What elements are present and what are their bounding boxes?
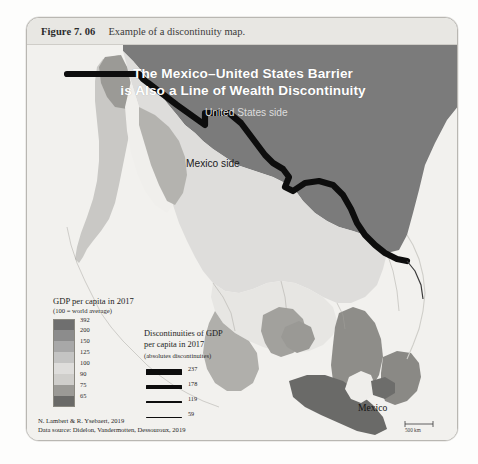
legend-gdp-per-capita: GDP per capita in 2017 (100 = world aver… — [53, 296, 134, 407]
legend-disc-item: 178 — [144, 378, 223, 393]
legend-gdp-swatch: 90 — [53, 374, 75, 385]
legend-gdp-tick-label: 90 — [80, 370, 86, 377]
figure-frame: Figure 7. 06 Example of a discontinuity … — [26, 17, 458, 441]
legend-disc-title-line-2: per capita in 2017 — [144, 340, 223, 351]
legend-gdp-swatch: 150 — [53, 341, 75, 352]
legend-discontinuities: Discontinuities of GDP per capita in 201… — [144, 329, 223, 423]
legend-gdp-swatch: 125 — [53, 352, 75, 363]
legend-gdp-swatch: 65 — [53, 396, 75, 407]
legend-gdp-tick-label: 125 — [80, 348, 90, 355]
legend-gdp-tick-label: 392 — [80, 316, 90, 323]
legend-gdp-tick-label: 150 — [80, 337, 90, 344]
figure-number-label: Figure 7. 06 — [41, 26, 95, 37]
figure-caption-bar: Figure 7. 06 Example of a discontinuity … — [27, 18, 457, 45]
map-credits: N. Lambert & R. Ysebaert, 2019 Data sour… — [38, 416, 185, 434]
legend-gdp-swatch: 200 — [53, 330, 75, 341]
legend-gdp-tick-label: 75 — [80, 381, 86, 388]
legend-gdp-tick-label: 200 — [80, 326, 90, 333]
legend-disc-line-sample — [146, 385, 182, 389]
legend-disc-value-label: 59 — [188, 410, 194, 417]
legend-gdp-tick-label: 100 — [80, 359, 90, 366]
legend-disc-items: 23717811959 — [144, 363, 223, 423]
legend-disc-line-sample — [146, 369, 182, 376]
legend-disc-value-label: 237 — [188, 365, 197, 372]
legend-gdp-subtitle: (100 = world average) — [53, 306, 134, 315]
legend-disc-value-label: 119 — [188, 395, 197, 402]
credits-authors: N. Lambert & R. Ysebaert, 2019 — [38, 416, 185, 425]
page-root: Figure 7. 06 Example of a discontinuity … — [0, 0, 478, 464]
legend-gdp-swatch: 75 — [53, 385, 75, 396]
credits-source: Data source: Didelon, Vandermotten, Dess… — [38, 425, 185, 434]
legend-disc-item: 237 — [144, 363, 223, 378]
legend-gdp-title: GDP per capita in 2017 — [53, 296, 134, 306]
legend-gdp-swatch: 392 — [53, 319, 75, 330]
legend-disc-subtitle: (absolutes discontinuites) — [144, 351, 223, 360]
legend-gdp-color-ramp: 392200150125100907565 — [53, 319, 75, 407]
map-plate: The Mexico–United States Barrier is Also… — [27, 45, 458, 441]
legend-disc-item: 119 — [144, 393, 223, 408]
legend-disc-value-label: 178 — [188, 380, 197, 387]
legend-disc-title-line-1: Discontinuities of GDP — [144, 329, 223, 340]
legend-gdp-tick-label: 65 — [80, 392, 86, 399]
figure-caption-text: Example of a discontinuity map. — [108, 26, 245, 37]
legend-disc-line-sample — [146, 401, 182, 403]
legend-gdp-swatch: 100 — [53, 363, 75, 374]
